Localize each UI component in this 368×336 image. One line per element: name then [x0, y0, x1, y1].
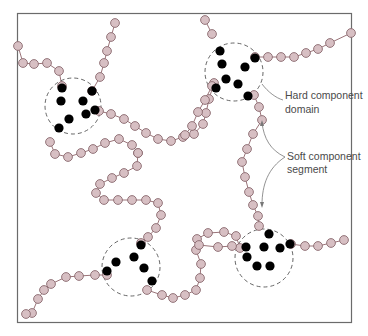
soft-bead [154, 199, 163, 208]
soft-bead [254, 212, 263, 221]
soft-bead [55, 67, 64, 76]
soft-bead [51, 150, 60, 159]
hard-bead [90, 105, 99, 114]
soft-bead [314, 242, 323, 251]
soft-bead [64, 153, 73, 162]
hard-bead [211, 83, 220, 92]
soft-bead [264, 53, 273, 62]
soft-bead [197, 260, 206, 269]
hard-bead [111, 257, 120, 266]
hard-bead [242, 252, 251, 261]
soft-bead [202, 109, 211, 118]
soft-bead [120, 115, 129, 124]
soft-bead [167, 137, 176, 146]
hard-bead [136, 240, 145, 249]
soft-bead [194, 108, 203, 117]
hard-bead [78, 96, 87, 105]
soft-bead [249, 130, 258, 139]
label-soft-1: Soft component [287, 150, 361, 162]
hard-bead [56, 96, 65, 105]
soft-bead [245, 188, 254, 197]
hard-bead [147, 276, 156, 285]
soft-bead [228, 242, 237, 251]
soft-bead [220, 228, 229, 237]
hard-bead [81, 109, 90, 118]
soft-bead [128, 141, 137, 150]
soft-bead [347, 29, 356, 38]
soft-bead [133, 162, 142, 171]
soft-bead [108, 174, 117, 183]
soft-bead [290, 53, 299, 62]
soft-bead [43, 59, 52, 68]
soft-bead [91, 271, 100, 280]
hard-bead [129, 252, 138, 261]
soft-bead [77, 149, 86, 158]
soft-bead [196, 274, 205, 283]
hard-bead [252, 261, 261, 270]
soft-bead [131, 122, 140, 131]
hard-bead [215, 46, 224, 55]
hard-bead [139, 263, 148, 272]
soft-bead [114, 196, 123, 205]
soft-bead [201, 16, 210, 25]
label-hard-1: Hard component [285, 89, 363, 101]
soft-bead [92, 189, 101, 198]
soft-bead [208, 30, 217, 39]
hard-bead [285, 239, 294, 248]
hard-bead [102, 266, 111, 275]
hard-bead [241, 242, 250, 251]
soft-bead [181, 131, 190, 140]
soft-bead [340, 236, 349, 245]
soft-bead [243, 145, 252, 154]
soft-bead [47, 280, 56, 289]
soft-bead [190, 130, 199, 139]
soft-bead [195, 241, 204, 250]
soft-bead [188, 122, 197, 131]
soft-bead [75, 272, 84, 281]
soft-bead [142, 129, 151, 138]
hard-bead [250, 53, 259, 62]
soft-bead [199, 120, 208, 129]
soft-bead [157, 211, 166, 220]
soft-bead [111, 19, 120, 28]
soft-bead [249, 201, 258, 210]
soft-bead [120, 169, 129, 178]
soft-bead [238, 158, 247, 167]
hard-bead [264, 229, 273, 238]
soft-bead [326, 39, 335, 48]
hard-bead [259, 242, 268, 251]
soft-bead [181, 291, 190, 300]
label-hard-2: domain [285, 103, 320, 115]
hard-bead [275, 243, 284, 252]
soft-bead [144, 233, 153, 242]
soft-bead [96, 180, 105, 189]
soft-bead [204, 229, 213, 238]
soft-bead [40, 286, 49, 295]
soft-bead [327, 239, 336, 248]
soft-bead [158, 291, 167, 300]
polymer-diagram: Hard component domain Soft component seg… [0, 0, 368, 336]
soft-bead [19, 59, 28, 68]
soft-bead [255, 222, 264, 231]
soft-bead [34, 295, 43, 304]
soft-bead [192, 286, 201, 295]
soft-bead [232, 232, 241, 241]
soft-bead [62, 273, 71, 282]
hard-bead [243, 91, 252, 100]
soft-bead [96, 73, 105, 82]
soft-bead [241, 173, 250, 182]
soft-bead [89, 145, 98, 154]
soft-bead [143, 286, 152, 295]
soft-bead [107, 110, 116, 119]
hard-bead [87, 86, 96, 95]
soft-bead [128, 196, 137, 205]
hard-bead [217, 59, 226, 68]
soft-bead [152, 224, 161, 233]
soft-bead [154, 135, 163, 144]
label-soft-2: segment [287, 163, 327, 175]
soft-bead [100, 196, 109, 205]
hard-bead [221, 74, 230, 83]
hard-bead [265, 261, 274, 270]
soft-bead [22, 310, 31, 319]
hard-bead [233, 79, 242, 88]
